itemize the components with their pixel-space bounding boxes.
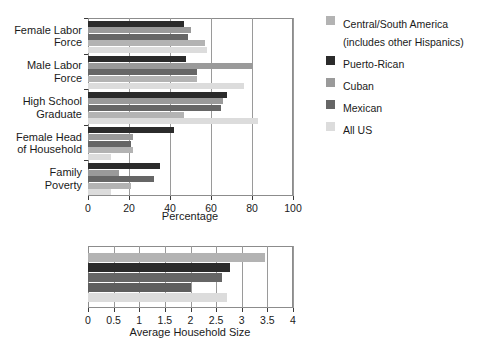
percentage-bar-chart: Female Labor ForceMale Labor ForceHigh S… bbox=[0, 0, 310, 232]
category-label: High School Graduate bbox=[0, 95, 82, 120]
bar bbox=[88, 273, 222, 282]
bar-group bbox=[88, 163, 293, 195]
bar bbox=[88, 283, 191, 292]
gridline bbox=[293, 246, 294, 308]
x-tick-label: 4 bbox=[290, 314, 296, 326]
bar bbox=[88, 69, 197, 75]
bar-group bbox=[88, 56, 293, 88]
bar bbox=[88, 105, 221, 111]
household-size-bar-chart: 00.511.522.533.54 Average Household Size bbox=[0, 238, 310, 354]
percentage-plot-area bbox=[88, 18, 293, 196]
legend: Central/South America (includes other Hi… bbox=[326, 14, 492, 142]
bar bbox=[88, 92, 227, 98]
x-tick-mark bbox=[129, 196, 130, 200]
bar bbox=[88, 56, 186, 62]
bar bbox=[88, 147, 133, 153]
legend-item-mexican: Mexican bbox=[326, 98, 492, 116]
category-label: Family Poverty bbox=[0, 166, 82, 191]
x-tick-mark bbox=[191, 308, 192, 312]
x-tick-mark bbox=[114, 308, 115, 312]
bar bbox=[88, 134, 133, 140]
legend-item-all_us: All US bbox=[326, 120, 492, 138]
category-label: Female Head of Household bbox=[0, 131, 82, 156]
legend-item-cuban: Cuban bbox=[326, 76, 492, 94]
x-tick-label: 2 bbox=[188, 314, 194, 326]
bar bbox=[88, 76, 197, 82]
x-tick-mark bbox=[252, 196, 253, 200]
legend-item-label: Mexican bbox=[343, 102, 382, 114]
bar bbox=[88, 141, 131, 147]
bar bbox=[88, 154, 111, 160]
x-tick-mark bbox=[139, 308, 140, 312]
bar bbox=[88, 83, 244, 89]
legend-item-label: Puerto-Rican bbox=[343, 58, 404, 70]
x-tick-mark bbox=[211, 196, 212, 200]
x-tick-label: 80 bbox=[246, 202, 258, 214]
x-tick-mark bbox=[293, 196, 294, 200]
bar bbox=[88, 47, 207, 53]
legend-swatch-icon bbox=[326, 78, 335, 87]
legend-item-label: All US bbox=[343, 124, 372, 136]
x-tick-mark bbox=[293, 308, 294, 312]
gridline bbox=[267, 246, 268, 308]
bar bbox=[88, 293, 227, 302]
legend-swatch-icon bbox=[326, 100, 335, 109]
bar bbox=[88, 40, 205, 46]
bar-group bbox=[88, 21, 293, 53]
category-label: Female Labor Force bbox=[0, 24, 82, 49]
category-tick-mark bbox=[84, 89, 88, 90]
bar bbox=[88, 163, 160, 169]
bar bbox=[88, 118, 258, 124]
bar bbox=[88, 183, 131, 189]
category-tick-mark bbox=[84, 54, 88, 55]
bar bbox=[88, 170, 119, 176]
bar bbox=[88, 98, 223, 104]
x-tick-label: 20 bbox=[123, 202, 135, 214]
x-axis-title: Average Household Size bbox=[130, 326, 251, 338]
x-tick-label: 1 bbox=[136, 314, 142, 326]
gridline bbox=[293, 18, 294, 196]
x-tick-label: 0 bbox=[85, 314, 91, 326]
legend-item-label: Central/South America (includes other Hi… bbox=[343, 18, 464, 48]
household-plot-area bbox=[88, 246, 293, 308]
legend-swatch-icon bbox=[326, 122, 335, 131]
bar bbox=[88, 112, 184, 118]
x-tick-label: 0 bbox=[85, 202, 91, 214]
category-label: Male Labor Force bbox=[0, 59, 82, 84]
bar bbox=[88, 127, 174, 133]
legend-item-central_south_america: Central/South America (includes other Hi… bbox=[326, 14, 492, 50]
bar-group bbox=[88, 127, 293, 159]
bar-group bbox=[88, 92, 293, 124]
category-tick-mark bbox=[84, 18, 88, 19]
x-tick-label: 3.5 bbox=[260, 314, 275, 326]
x-tick-mark bbox=[88, 196, 89, 200]
bar bbox=[88, 63, 252, 69]
legend-item-label: Cuban bbox=[343, 80, 374, 92]
x-tick-mark bbox=[170, 196, 171, 200]
legend-swatch-icon bbox=[326, 56, 335, 65]
bar bbox=[88, 263, 230, 272]
bar bbox=[88, 21, 184, 27]
legend-item-puerto_rican: Puerto-Rican bbox=[326, 54, 492, 72]
x-tick-label: 100 bbox=[284, 202, 302, 214]
x-tick-label: 1.5 bbox=[158, 314, 173, 326]
category-tick-mark bbox=[84, 160, 88, 161]
bar bbox=[88, 189, 111, 195]
bar bbox=[88, 34, 188, 40]
bar bbox=[88, 176, 154, 182]
bar bbox=[88, 253, 265, 262]
x-tick-label: 0.5 bbox=[106, 314, 121, 326]
x-tick-mark bbox=[216, 308, 217, 312]
bar bbox=[88, 27, 191, 33]
legend-swatch-icon bbox=[326, 16, 335, 25]
x-tick-label: 2.5 bbox=[209, 314, 224, 326]
x-tick-mark bbox=[267, 308, 268, 312]
x-axis-title: Percentage bbox=[162, 210, 218, 222]
x-tick-mark bbox=[242, 308, 243, 312]
x-tick-label: 3 bbox=[239, 314, 245, 326]
category-tick-mark bbox=[84, 125, 88, 126]
x-tick-mark bbox=[165, 308, 166, 312]
x-tick-mark bbox=[88, 308, 89, 312]
